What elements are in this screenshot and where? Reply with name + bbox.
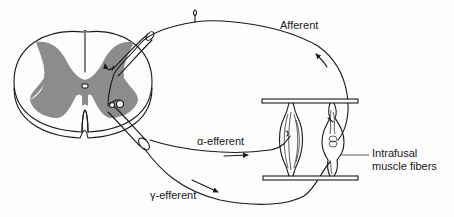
upper-tendon-plate xyxy=(262,99,358,103)
afferent-label: Afferent xyxy=(280,19,318,31)
alpha-efferent-arrow xyxy=(224,155,248,156)
intrafusal-label-line1: Intrafusal xyxy=(372,147,417,159)
afferent-direction-arrow xyxy=(316,54,327,67)
central-canal xyxy=(82,84,88,88)
intrafusal-muscle-fiber xyxy=(322,103,344,176)
extrafusal-muscle-fiber xyxy=(280,103,303,176)
spinal-cord xyxy=(14,31,152,139)
alpha-efferent-label: α-efferent xyxy=(197,135,244,147)
dorsal-root-ganglion-icon xyxy=(194,10,197,22)
reflex-arc-diagram: Afferent α-efferent γ-efferent Intrafusa… xyxy=(0,0,454,217)
alpha-motor-neuron xyxy=(117,101,124,108)
intrafusal-label-line2: muscle fibers xyxy=(372,160,437,172)
lower-tendon-plate xyxy=(263,176,358,180)
gamma-efferent-label: γ-efferent xyxy=(150,189,196,201)
